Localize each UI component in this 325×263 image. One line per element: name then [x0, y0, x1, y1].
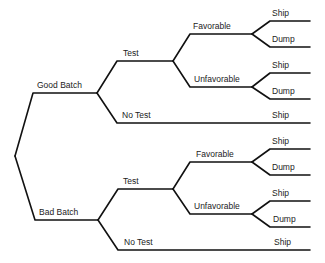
label-bad-unfavorable: Unfavorable — [194, 202, 240, 211]
label-bad-test: Test — [123, 177, 139, 186]
label-good-unfav-ship: Ship — [272, 61, 289, 70]
label-good-notest: No Test — [122, 111, 151, 120]
label-bad-batch: Bad Batch — [39, 208, 78, 217]
label-good-test: Test — [123, 49, 139, 58]
label-good-unfavorable: Unfavorable — [194, 75, 240, 84]
label-good-fav-ship: Ship — [272, 9, 289, 18]
label-good-favorable: Favorable — [193, 22, 231, 31]
label-bad-fav-ship: Ship — [272, 137, 289, 146]
edge-good-batch — [15, 93, 97, 156]
edge-bad-unfav-ship — [252, 201, 310, 214]
edge-bad-test-favorable — [173, 162, 252, 189]
edge-good-test — [97, 61, 173, 93]
edge-good-unfav-ship — [252, 73, 310, 87]
label-good-fav-dump: Dump — [272, 35, 295, 44]
label-bad-unfav-dump: Dump — [273, 215, 296, 224]
label-good-batch: Good Batch — [37, 81, 82, 90]
edge-bad-fav-ship — [252, 149, 310, 162]
label-bad-favorable: Favorable — [196, 150, 234, 159]
label-bad-notest: No Test — [124, 238, 153, 247]
edge-good-fav-ship — [252, 21, 310, 34]
label-good-unfav-dump: Dump — [272, 87, 295, 96]
edge-good-test-favorable — [173, 34, 252, 61]
label-bad-notest-ship: Ship — [274, 238, 291, 247]
label-bad-fav-dump: Dump — [272, 163, 295, 172]
label-bad-unfav-ship: Ship — [272, 189, 289, 198]
label-good-notest-ship: Ship — [272, 111, 289, 120]
edge-bad-test — [98, 189, 173, 220]
